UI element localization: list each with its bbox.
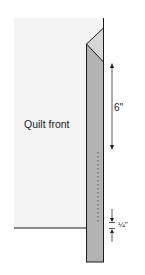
six-inch-label: 6": [114, 102, 123, 113]
quilt-front-label: Quilt front: [24, 118, 70, 130]
quarter-inch-label: ¼": [118, 220, 128, 229]
binding-diagram: [0, 0, 145, 275]
binding-strip: [87, 44, 104, 262]
quarter-inch-dimension-arrows: [109, 209, 115, 242]
